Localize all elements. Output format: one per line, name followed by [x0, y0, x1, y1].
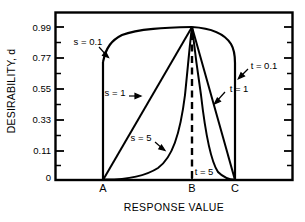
chart-figure: DESIRABILITY, d 0.99 0.77 0.55 0.33 0.11…: [0, 0, 305, 222]
annotation-s-1: s = 1: [105, 87, 126, 98]
annotation-t-1: t = 1: [230, 83, 249, 94]
curve-s-1: [103, 27, 192, 180]
y-major-ticks-right: [284, 27, 293, 151]
curve-s-0-1: [103, 27, 192, 62]
x-tick-label-b: B: [188, 182, 195, 194]
annotation-t-5: t = 5: [195, 166, 214, 177]
annotation-arrows: [99, 47, 248, 151]
curve-t-0-1: [192, 27, 235, 63]
annotation-s-5: s = 5: [131, 132, 152, 143]
arrowhead-s-1: [135, 94, 141, 99]
annotation-s-0-1: s = 0.1: [74, 36, 103, 47]
x-tick-label-c: C: [231, 182, 239, 194]
annotation-t-0-1: t = 0.1: [251, 60, 278, 71]
x-axis-title: RESPONSE VALUE: [55, 201, 293, 213]
x-tick-label-a: A: [99, 182, 106, 194]
y-major-ticks: [56, 27, 65, 151]
curve-t-1: [192, 27, 235, 180]
plot-area: [0, 0, 305, 222]
